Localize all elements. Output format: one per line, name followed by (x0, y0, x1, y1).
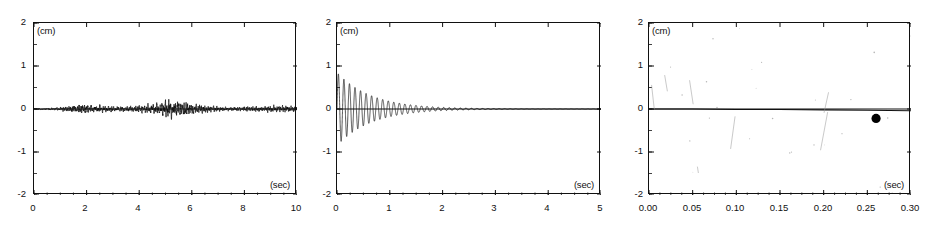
waveform-plot-2 (337, 23, 601, 195)
y-tick-label: 1 (8, 59, 26, 70)
y-tick-label: 2 (8, 16, 26, 27)
x-tick-label: 8 (233, 202, 253, 213)
y-tick-label: 1 (314, 59, 331, 70)
chart-panel-2: (cm) (sec) 2 1 0 -1 -2 0 1 2 3 4 5 (314, 0, 634, 229)
figure-container: (cm) (sec) 2 1 0 -1 -2 0 2 4 6 8 10 (cm)… (0, 0, 937, 229)
y-axis-unit-label-2: (cm) (340, 25, 358, 36)
waveform-plot-3 (649, 23, 911, 195)
x-tick-label: 0 (326, 202, 346, 213)
y-tick-label: -2 (310, 188, 331, 199)
y-tick-label: -2 (622, 188, 643, 199)
x-tick-label: 2 (75, 202, 95, 213)
x-tick-label: 3 (484, 202, 504, 213)
plot-area-1: (cm) (sec) (33, 22, 296, 194)
y-tick-label: 0 (626, 102, 643, 113)
y-tick-label: 2 (314, 16, 331, 27)
x-tick-label: 0.30 (895, 202, 925, 213)
y-axis-unit-label-3: (cm) (652, 25, 670, 36)
y-tick-label: -2 (4, 188, 26, 199)
x-tick-label: 4 (128, 202, 148, 213)
x-tick-label: 0.10 (720, 202, 750, 213)
y-tick-label: 1 (626, 59, 643, 70)
chart-panel-1: (cm) (sec) 2 1 0 -1 -2 0 2 4 6 8 10 (0, 0, 320, 229)
x-tick-label: 0 (23, 202, 43, 213)
x-tick-label: 1 (379, 202, 399, 213)
x-tick-label: 0.15 (764, 202, 794, 213)
y-axis-unit-label-1: (cm) (37, 25, 55, 36)
x-tick-label: 0.05 (677, 202, 707, 213)
plot-area-2: (cm) (sec) (336, 22, 600, 194)
x-axis-unit-label-2: (sec) (574, 179, 594, 190)
x-tick-label: 5 (590, 202, 610, 213)
waveform-plot-1 (34, 23, 297, 195)
y-tick-label: 0 (314, 102, 331, 113)
x-tick-label: 6 (180, 202, 200, 213)
x-tick-label: 0.00 (633, 202, 663, 213)
x-tick-label: 2 (432, 202, 452, 213)
y-tick-label: 2 (626, 16, 643, 27)
chart-panel-3: (cm) (sec) 2 1 0 -1 -2 0.00 0.05 0.10 0.… (626, 0, 937, 229)
x-tick-label: 0.25 (851, 202, 881, 213)
y-tick-label: -1 (622, 145, 643, 156)
x-tick-label: 0.20 (808, 202, 838, 213)
y-tick-label: -1 (4, 145, 26, 156)
x-axis-unit-label-1: (sec) (270, 179, 290, 190)
x-axis-unit-label-3: (sec) (884, 179, 904, 190)
y-tick-label: 0 (8, 102, 26, 113)
plot-area-3: (cm) (sec) (648, 22, 910, 194)
x-tick-label: 10 (285, 202, 307, 213)
y-tick-label: -1 (310, 145, 331, 156)
x-tick-label: 4 (537, 202, 557, 213)
